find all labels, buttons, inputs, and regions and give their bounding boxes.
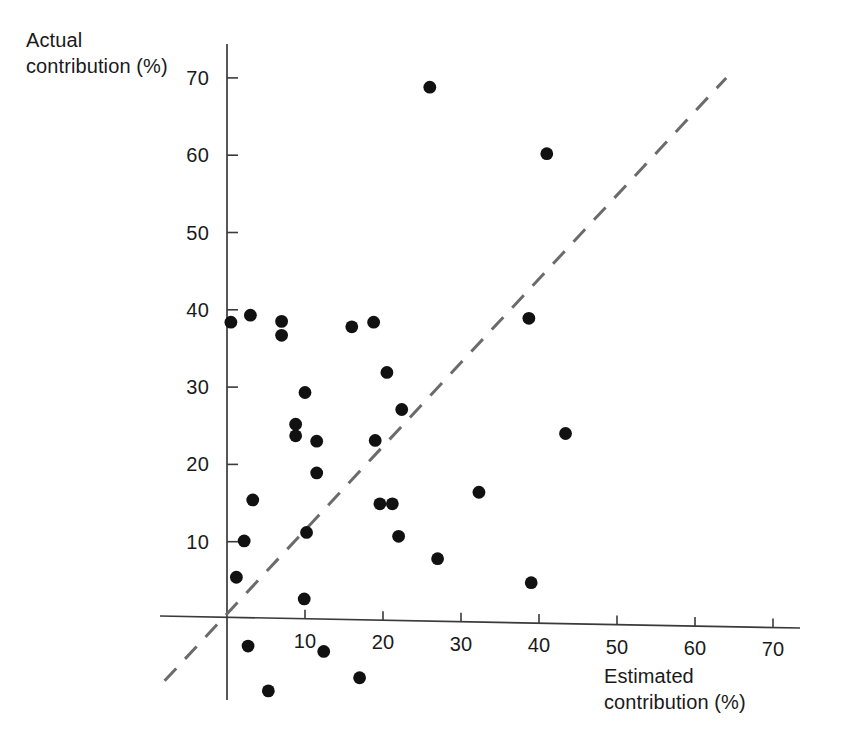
data-point (386, 497, 399, 510)
data-point (395, 403, 408, 416)
data-point (431, 552, 444, 565)
data-point (275, 315, 288, 328)
data-point (242, 640, 255, 653)
y-axis-tick-label: 30 (186, 376, 209, 398)
data-point (310, 467, 323, 480)
identity-reference-line (165, 78, 727, 681)
data-point (299, 386, 312, 399)
data-point (381, 366, 394, 379)
x-axis-tick-label: 50 (606, 636, 629, 658)
data-point (238, 535, 251, 548)
data-point (522, 312, 535, 325)
y-axis-tick-label: 10 (186, 531, 209, 553)
x-axis-tick-label: 10 (294, 630, 317, 652)
data-point (289, 418, 302, 431)
data-point (230, 571, 243, 584)
data-point (310, 435, 323, 448)
data-point (289, 429, 302, 442)
reference-line-group (165, 78, 727, 681)
x-axis-line (160, 616, 800, 628)
x-axis-tick-label: 20 (372, 631, 395, 653)
data-point (300, 526, 313, 539)
data-point (367, 316, 380, 329)
y-axis-tick-label: 50 (186, 222, 209, 244)
data-points-group (225, 81, 572, 698)
y-axis-tick-label: 70 (186, 67, 209, 89)
y-axis-tick-label: 60 (186, 144, 209, 166)
axes-group (160, 44, 800, 700)
plot-area: 1020304050607010203040506070 (0, 0, 844, 749)
scatter-plot-figure: Actual contribution (%) Estimated contri… (0, 0, 844, 749)
y-axis-tick-label: 20 (186, 453, 209, 475)
x-axis-tick-label: 30 (450, 633, 473, 655)
data-point (244, 309, 257, 322)
data-point (559, 427, 572, 440)
x-axis-tick-label: 70 (762, 638, 785, 660)
data-point (369, 434, 382, 447)
data-point (392, 530, 405, 543)
x-axis-tick-label: 60 (684, 637, 707, 659)
data-point (275, 329, 288, 342)
data-point (473, 486, 486, 499)
data-point (246, 494, 259, 507)
data-point (225, 316, 238, 329)
data-point (345, 320, 358, 333)
data-point (525, 576, 538, 589)
tick-labels-group: 1020304050607010203040506070 (186, 67, 784, 661)
y-axis-tick-label: 40 (186, 299, 209, 321)
data-point (353, 671, 366, 684)
x-axis-tick-label: 40 (528, 634, 551, 656)
data-point (540, 147, 553, 160)
data-point (298, 593, 311, 606)
data-point (423, 81, 436, 94)
data-point (373, 497, 386, 510)
data-point (317, 645, 330, 658)
data-point (262, 684, 275, 697)
